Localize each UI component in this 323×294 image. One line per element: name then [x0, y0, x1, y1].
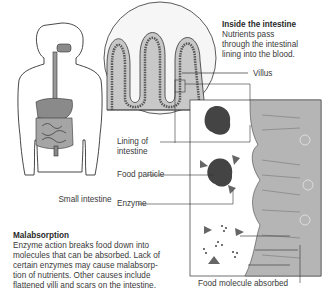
inside-line: Nutrients pass [222, 30, 322, 40]
small-intestine-label: Small intestine [55, 195, 115, 205]
food-particle-label: Food particle [117, 170, 164, 180]
malabsorption-line: flattened villi and scars on the intesti… [13, 281, 203, 291]
food-molecule-label: Food molecule absorbed [198, 279, 288, 289]
inside-intestine-title: Inside the intestine [222, 20, 322, 30]
malabsorption-line: Enzyme action breaks food down into [13, 241, 203, 251]
malabsorption-line: molecules that can be absorbed. Lack of [13, 251, 203, 261]
absorption-detail-panel [190, 100, 321, 276]
inside-intestine-caption: Inside the intestine Nutrients pass thro… [222, 20, 322, 60]
malabsorption-title: Malabsorption [13, 231, 203, 241]
enzyme-label: Enzyme [117, 199, 147, 209]
lining-line: intestine [117, 147, 148, 157]
malabsorption-line: certain enzymes may cause malabsorp- [13, 261, 203, 271]
villi-magnification-icon [104, 2, 216, 114]
malabsorption-line: tion of nutrients. Other causes include [13, 271, 203, 281]
lining-line: Lining of [117, 137, 148, 147]
inside-line: through the intestinal [222, 40, 322, 50]
villus-label: Villus [253, 69, 272, 79]
inside-line: lining into the blood. [222, 50, 322, 60]
lining-label: Lining of intestine [117, 137, 148, 157]
malabsorption-caption: Malabsorption Enzyme action breaks food … [13, 231, 203, 291]
